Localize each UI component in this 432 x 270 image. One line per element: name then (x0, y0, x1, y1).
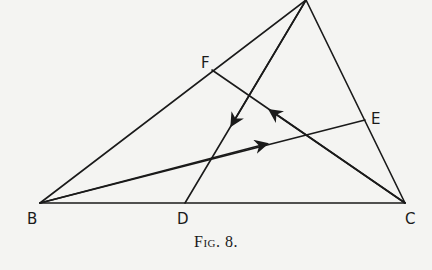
side-ab (40, 0, 306, 203)
arrow-be-icon (40, 145, 262, 203)
arrow-ad-icon (234, 0, 306, 121)
label-b: B (27, 210, 37, 228)
label-e: E (371, 110, 380, 128)
triangle-diagram: F E B D C (0, 0, 432, 270)
side-ac (306, 0, 405, 203)
label-d: D (177, 210, 189, 228)
figure-caption: Fig. 8. (0, 233, 432, 251)
label-c: C (405, 210, 415, 228)
label-f: F (201, 54, 210, 72)
